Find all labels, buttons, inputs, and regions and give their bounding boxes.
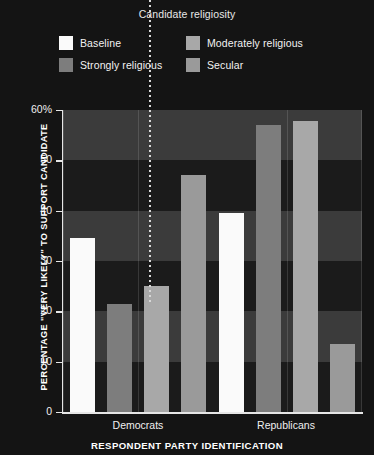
y-axis-tick — [56, 362, 62, 363]
legend-label-baseline: Baseline — [80, 37, 121, 49]
legend-swatch-secular — [186, 58, 200, 72]
legend-item-baseline: Baseline — [59, 36, 121, 50]
y-axis-tick-label: 60% — [31, 103, 52, 115]
legend-label-moderately-religious: Moderately religious — [207, 37, 303, 49]
y-axis-tick — [56, 110, 62, 111]
y-axis-tick — [56, 311, 62, 312]
y-axis-line — [62, 110, 63, 413]
plot-area — [63, 110, 362, 412]
y-axis-tick — [56, 412, 62, 413]
bar-moderately-religious-republicans — [293, 121, 318, 412]
y-axis-title: PERCENTAGE "VERY LIKELY" TO SUPPORT CAND… — [39, 117, 49, 397]
vertical-gridline — [287, 110, 288, 412]
legend-label-secular: Secular — [207, 59, 243, 71]
x-axis-line — [62, 412, 363, 414]
group-divider — [149, 0, 151, 302]
legend-swatch-moderately-religious — [186, 36, 200, 50]
x-axis-title: RESPONDENT PARTY IDENTIFICATION — [0, 440, 374, 451]
y-axis-tick — [56, 160, 62, 161]
y-axis-tick — [56, 211, 62, 212]
legend-item-secular: Secular — [186, 58, 243, 72]
bar-baseline-republicans — [219, 213, 244, 412]
x-group-label-democrats: Democrats — [78, 419, 198, 431]
vertical-gridline — [361, 110, 362, 412]
vertical-gridline — [138, 110, 139, 412]
bar-secular-democrats — [181, 175, 206, 412]
legend-item-moderately-religious: Moderately religious — [186, 36, 303, 50]
legend-title: Candidate religiosity — [0, 8, 374, 20]
legend-item-strongly-religious: Strongly religious — [59, 58, 162, 72]
bar-secular-republicans — [330, 344, 355, 412]
bar-strongly-religious-republicans — [256, 125, 281, 412]
y-axis-tick-label: 0 — [46, 405, 52, 417]
x-group-label-republicans: Republicans — [226, 419, 346, 431]
bar-strongly-religious-democrats — [107, 304, 132, 412]
bar-baseline-democrats — [70, 238, 95, 412]
y-axis-tick — [56, 261, 62, 262]
chart-legend: Candidate religiosity Baseline Moderatel… — [0, 0, 374, 92]
chart-screenshot: Candidate religiosity Baseline Moderatel… — [0, 0, 374, 455]
legend-swatch-baseline — [59, 36, 73, 50]
legend-swatch-strongly-religious — [59, 58, 73, 72]
bar-moderately-religious-democrats — [144, 286, 169, 412]
